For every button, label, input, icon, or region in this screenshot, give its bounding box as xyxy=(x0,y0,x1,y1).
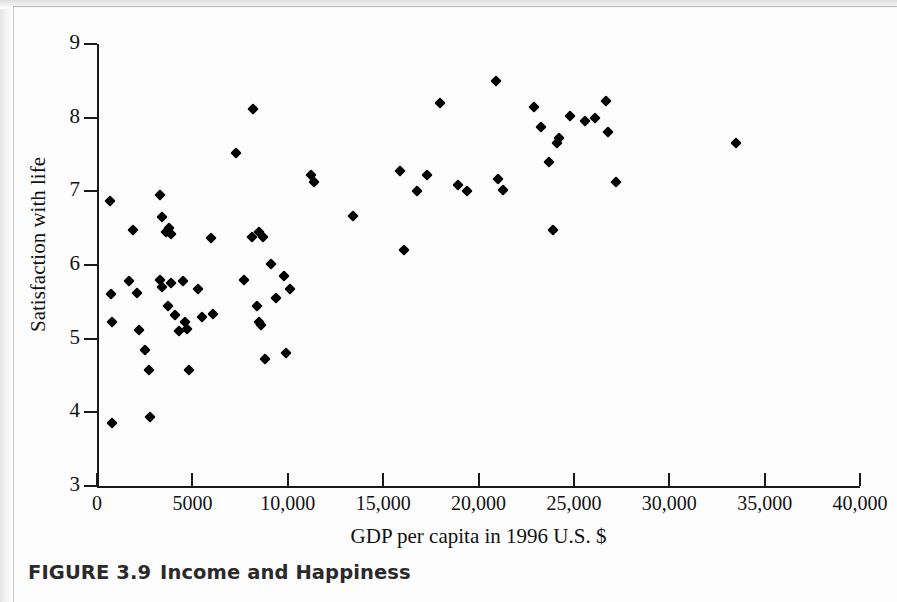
data-point xyxy=(106,289,117,300)
data-point xyxy=(601,96,612,107)
data-point xyxy=(564,111,575,122)
data-point xyxy=(177,276,188,287)
data-point xyxy=(196,311,207,322)
data-point xyxy=(252,300,263,311)
data-point xyxy=(255,320,266,331)
data-point xyxy=(183,365,194,376)
data-point xyxy=(145,412,156,423)
data-point xyxy=(231,147,242,158)
data-point xyxy=(156,211,167,222)
data-point xyxy=(395,166,406,177)
data-point xyxy=(133,324,144,335)
data-point xyxy=(589,112,600,123)
data-point xyxy=(730,138,741,149)
figure-page: 3456789 0500010,00015,00020,00025,00030,… xyxy=(0,0,897,602)
figure-caption: FIGURE 3.9Income and Happiness xyxy=(28,561,411,584)
data-point xyxy=(265,258,276,269)
figure-number: FIGURE 3.9 xyxy=(28,561,151,584)
data-point xyxy=(107,418,118,429)
data-point xyxy=(170,309,181,320)
data-point xyxy=(143,365,154,376)
figure-title: Income and Happiness xyxy=(160,561,411,584)
data-point xyxy=(498,184,509,195)
data-point xyxy=(421,169,432,180)
data-point xyxy=(309,177,320,188)
data-point xyxy=(412,186,423,197)
data-point xyxy=(208,309,219,320)
data-point xyxy=(536,122,547,133)
data-point xyxy=(166,278,177,289)
data-points-layer xyxy=(0,0,897,530)
data-point xyxy=(492,173,503,184)
data-point xyxy=(131,287,142,298)
data-point xyxy=(248,103,259,114)
data-point xyxy=(192,283,203,294)
data-point xyxy=(271,292,282,303)
data-point xyxy=(139,344,150,355)
data-point xyxy=(278,270,289,281)
scatter-plot: 3456789 0500010,00015,00020,00025,00030,… xyxy=(0,0,897,530)
data-point xyxy=(528,101,539,112)
data-point xyxy=(461,186,472,197)
data-point xyxy=(347,210,358,221)
data-point xyxy=(238,274,249,285)
data-point xyxy=(206,232,217,243)
data-point xyxy=(398,245,409,256)
data-point xyxy=(154,189,165,200)
data-point xyxy=(547,225,558,236)
data-point xyxy=(105,195,116,206)
data-point xyxy=(259,353,270,364)
data-point xyxy=(166,228,177,239)
data-point xyxy=(280,348,291,359)
data-point xyxy=(128,224,139,235)
data-point xyxy=(490,75,501,86)
data-point xyxy=(162,300,173,311)
data-point xyxy=(435,97,446,108)
data-point xyxy=(610,177,621,188)
data-point xyxy=(543,156,554,167)
data-point xyxy=(284,283,295,294)
data-point xyxy=(107,317,118,328)
data-point xyxy=(124,276,135,287)
data-point xyxy=(603,127,614,138)
